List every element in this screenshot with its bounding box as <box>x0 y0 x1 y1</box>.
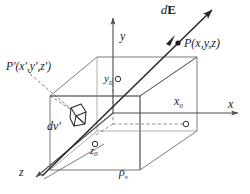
x0-marker <box>183 121 189 127</box>
z0-label: z0 <box>89 145 98 158</box>
dE-label-E: E <box>167 2 176 17</box>
figure-container: dE P(x,y,z) P′(x′,y′,z′) dv′ x y z x0 y0… <box>0 0 250 194</box>
x0-label-sub: 0 <box>179 102 183 110</box>
y0-marker <box>115 76 120 81</box>
y-axis-label: y <box>119 29 126 43</box>
box-top-face <box>50 57 197 96</box>
charge-density-label: ρv <box>118 165 129 181</box>
dE-label: dE <box>161 2 176 17</box>
dE-mid-arrowhead <box>166 35 175 46</box>
y0-label-sub: 0 <box>109 79 113 87</box>
volume-element-label: dv′ <box>47 119 61 133</box>
y0-label: y0 <box>103 72 113 87</box>
volume-element-shape <box>70 104 86 126</box>
dE-vector-parallel-ray <box>44 144 104 179</box>
field-point-label: P(x,y,z) <box>183 36 220 50</box>
source-point-label: P′(x′,y′,z′) <box>5 60 51 73</box>
dE-field-vector-arrow <box>42 10 212 176</box>
z0-label-sub: 0 <box>94 150 98 158</box>
physics-diagram-svg: dE P(x,y,z) P′(x′,y′,z′) dv′ x y z x0 y0… <box>0 0 250 194</box>
x0-label: x0 <box>173 94 183 110</box>
source-point-leader <box>30 74 72 110</box>
z-axis-label: z <box>18 165 24 179</box>
charge-density-sub: v <box>125 173 129 181</box>
x-axis-label: x <box>227 97 234 111</box>
field-point-marker <box>175 40 180 45</box>
construction-dashed-lines <box>96 78 183 135</box>
